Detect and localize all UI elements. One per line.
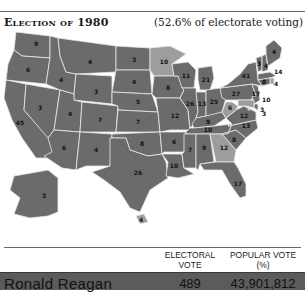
state-ev-label: 3 xyxy=(38,104,42,111)
state-ev-label: 3 xyxy=(94,88,98,95)
state-ev-label: 6 xyxy=(26,66,30,73)
state-ev-label: 12 xyxy=(220,144,228,151)
state-ev-label: 7 xyxy=(98,116,102,123)
state-ev-label: 3 xyxy=(262,110,266,117)
state-ak xyxy=(10,170,58,218)
electoral-vote-value: 489 xyxy=(160,276,220,291)
electoral-vote-header: ELECTORAL VOTE xyxy=(160,250,220,270)
state-ev-label: 8 xyxy=(166,84,170,91)
state-ev-label: 3 xyxy=(42,192,46,199)
state-ev-label: 4 xyxy=(94,146,98,153)
state-mt xyxy=(58,38,116,74)
state-de xyxy=(254,104,258,110)
state-ev-label: 3 xyxy=(132,56,136,63)
state-ev-label: 7 xyxy=(136,118,140,125)
state-ev-label: 13 xyxy=(242,122,250,129)
state-ev-label: 10 xyxy=(160,58,168,65)
state-ev-label: 17 xyxy=(252,90,260,97)
popular-vote-value: 43,901,812 xyxy=(222,276,304,291)
state-ev-label: 26 xyxy=(134,169,142,176)
state-ev-label: 4 xyxy=(68,110,72,117)
electoral-map: 9645344346743457826108126101126211325910… xyxy=(0,28,305,228)
state-ev-label: 10 xyxy=(204,126,212,133)
state-ev-label: 11 xyxy=(182,72,190,79)
popular-vote-header: POPULAR VOTE (%) xyxy=(222,250,304,270)
state-ev-label: 4 xyxy=(264,62,268,69)
state-ev-label: 6 xyxy=(62,144,66,151)
state-ev-label: 7 xyxy=(188,146,192,153)
state-ev-label: 10 xyxy=(262,96,270,103)
state-ev-label: 8 xyxy=(262,78,266,85)
state-ev-label: 45 xyxy=(16,119,24,126)
state-ev-label: 9 xyxy=(34,40,38,47)
state-ev-label: 6 xyxy=(228,104,232,111)
state-ev-label: 17 xyxy=(234,180,242,187)
turnout-subtitle: (52.6% of electorate voting) xyxy=(154,16,303,28)
state-dc xyxy=(248,108,250,110)
state-ev-label: 12 xyxy=(171,112,179,119)
table-rule xyxy=(4,247,301,248)
state-ev-label: 4 xyxy=(274,80,278,87)
state-ev-label: 3 xyxy=(257,60,261,67)
state-ev-label: 4 xyxy=(59,76,63,83)
state-ev-label: 12 xyxy=(240,112,248,119)
state-ev-label: 41 xyxy=(242,72,250,79)
state-ev-label: 9 xyxy=(206,118,210,125)
state-ev-label: 5 xyxy=(136,98,140,105)
state-ev-label: 8 xyxy=(232,136,236,143)
state-ev-label: 6 xyxy=(172,138,176,145)
top-rule xyxy=(0,11,305,12)
state-ev-label: 26 xyxy=(186,100,194,107)
candidate-name: Ronald Reagan xyxy=(4,275,112,292)
state-ev-label: 9 xyxy=(202,144,206,151)
state-ev-label: 8 xyxy=(140,140,144,147)
state-ev-label: 4 xyxy=(272,48,276,55)
state-ev-label: 10 xyxy=(170,162,178,169)
state-ev-label: 14 xyxy=(274,68,282,75)
state-ev-label: 13 xyxy=(198,100,206,107)
state-ev-label: 4 xyxy=(132,78,136,85)
state-ev-label: 27 xyxy=(232,90,240,97)
state-ev-label: 4 xyxy=(88,58,92,65)
state-ev-label: 25 xyxy=(210,98,218,105)
state-ev-label: 4 xyxy=(139,216,143,223)
state-ev-label: 21 xyxy=(202,76,210,83)
